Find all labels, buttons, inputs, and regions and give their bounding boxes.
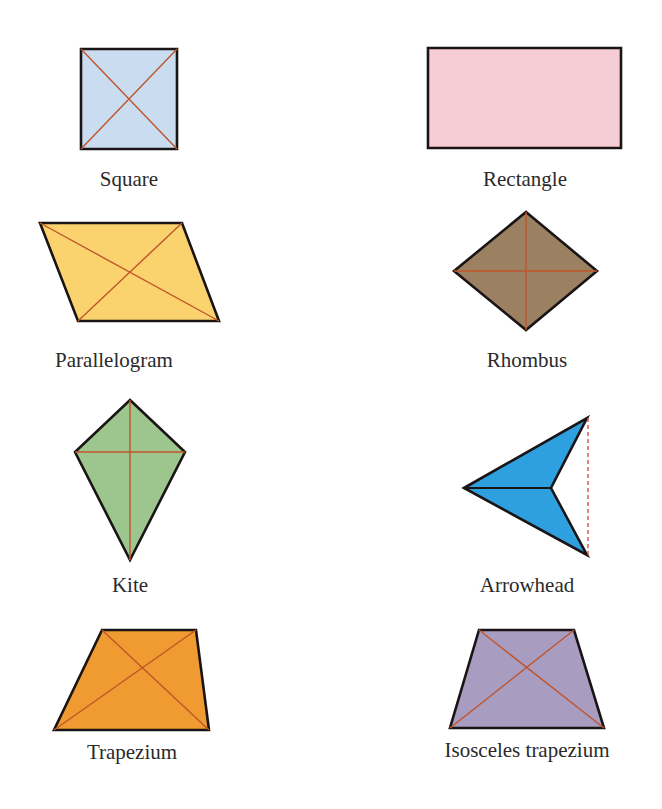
label-arrowhead: Arrowhead: [480, 575, 574, 596]
trapezium-outline: [54, 630, 209, 730]
kite-shape: [75, 400, 185, 560]
label-parallelogram: Parallelogram: [55, 350, 173, 371]
label-kite: Kite: [112, 575, 148, 596]
trapezium-shape: [54, 630, 209, 730]
rhombus-shape: [454, 212, 597, 330]
arrowhead-shape: [464, 418, 588, 555]
isosceles-trapezium-shape: [450, 630, 604, 728]
label-square: Square: [100, 169, 158, 190]
square-shape: [81, 49, 177, 149]
label-rhombus: Rhombus: [487, 350, 568, 371]
rectangle-shape: [428, 48, 621, 148]
label-trapezium: Trapezium: [87, 742, 177, 763]
quadrilaterals-figure: [0, 0, 662, 809]
label-rectangle: Rectangle: [483, 169, 567, 190]
rectangle-outline: [428, 48, 621, 148]
arrowhead-outline: [464, 418, 587, 555]
isosceles-trapezium-outline: [450, 630, 604, 728]
label-isosceles-trapezium: Isosceles trapezium: [444, 740, 609, 761]
parallelogram-shape: [40, 223, 219, 321]
